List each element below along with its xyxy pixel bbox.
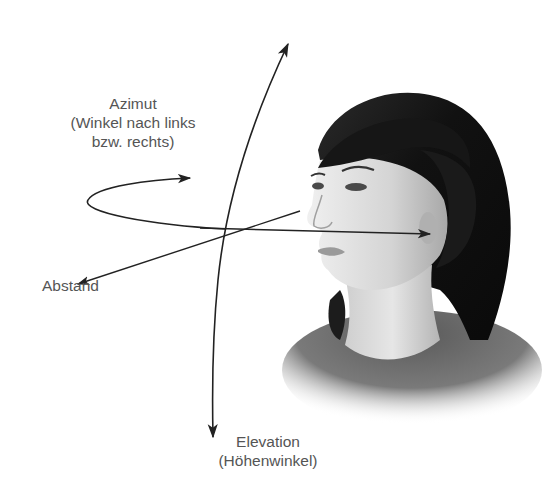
ear (419, 212, 437, 244)
eye (345, 183, 367, 191)
elevation-desc: (Höhenwinkel) (204, 451, 332, 470)
elevation-label: Elevation (Höhenwinkel) (204, 432, 332, 470)
elevation-title: Elevation (204, 432, 332, 451)
azimuth-desc-line2: bzw. rechts) (48, 132, 218, 151)
distance-label: Abstand (42, 276, 99, 295)
sound-localization-diagram: Azimut (Winkel nach links bzw. rechts) A… (0, 0, 556, 490)
azimuth-rotation-arrow (87, 178, 226, 229)
azimuth-label: Azimut (Winkel nach links bzw. rechts) (48, 94, 218, 151)
azimuth-title: Azimut (48, 94, 218, 113)
distance-axis-arrow (78, 211, 300, 284)
elevation-axis-arrow (213, 44, 288, 437)
woman-head-illustration (282, 93, 542, 430)
diagram-graphics (0, 0, 556, 490)
eye (312, 183, 324, 190)
azimuth-desc-line1: (Winkel nach links (48, 113, 218, 132)
